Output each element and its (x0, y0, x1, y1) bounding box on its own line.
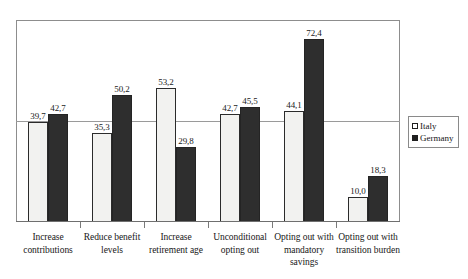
bar-group: 42,745,5 (220, 20, 260, 222)
bar-germany-2 (176, 147, 196, 222)
axis-tick (336, 222, 337, 228)
legend-label-germany: Germany (420, 132, 454, 144)
bar-italy-5 (348, 197, 368, 222)
category-axis-labels: IncreasecontributionsReduce benefitlevel… (16, 231, 400, 277)
legend-item-germany: Germany (412, 132, 454, 144)
bar-italy-1 (92, 133, 112, 222)
category-label-line: transition burden (330, 244, 406, 257)
chart-figure: 39,742,735,350,253,229,842,745,544,172,4… (0, 0, 468, 279)
axis-tick (80, 222, 81, 228)
category-label-line: savings (266, 256, 342, 269)
bar-germany-0 (48, 114, 68, 222)
axis-tick (272, 222, 273, 228)
bar-germany-4 (304, 39, 324, 222)
value-label-germany-1: 50,2 (106, 84, 138, 94)
value-label-germany-3: 45,5 (234, 96, 266, 106)
filled-square-swatch-icon (412, 135, 418, 141)
axis-tick (208, 222, 209, 228)
bar-group: 35,350,2 (92, 20, 132, 222)
bar-germany-3 (240, 107, 260, 222)
category-label-5: Opting out withtransition burden (330, 231, 406, 256)
value-label-italy-2: 53,2 (150, 77, 182, 87)
bar-group: 10,018,3 (348, 20, 388, 222)
bar-group: 53,229,8 (156, 20, 196, 222)
bar-italy-4 (284, 111, 304, 222)
bar-germany-1 (112, 95, 132, 222)
bar-germany-5 (368, 176, 388, 222)
legend-label-italy: Italy (420, 120, 437, 132)
legend-item-italy: Italy (412, 120, 454, 132)
category-label-line: Opting out with (330, 231, 406, 244)
bar-group: 39,742,7 (28, 20, 68, 222)
bar-italy-3 (220, 114, 240, 222)
value-label-germany-5: 18,3 (362, 165, 394, 175)
bar-italy-2 (156, 88, 176, 222)
value-label-germany-2: 29,8 (170, 136, 202, 146)
chart-legend: Italy Germany (408, 116, 459, 148)
plot-area: 39,742,735,350,253,229,842,745,544,172,4… (16, 20, 400, 222)
axis-tick (144, 222, 145, 228)
value-label-germany-4: 72,4 (298, 28, 330, 38)
bar-group: 44,172,4 (284, 20, 324, 222)
open-square-swatch-icon (412, 123, 418, 129)
value-label-germany-0: 42,7 (42, 103, 74, 113)
bar-italy-0 (28, 122, 48, 222)
